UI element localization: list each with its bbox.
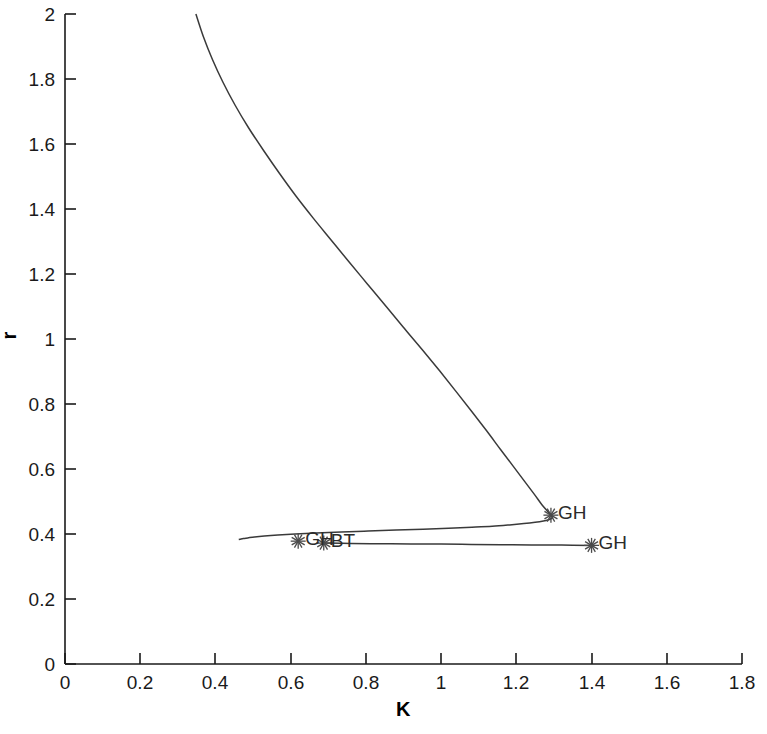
x-axis-title: K [396, 698, 410, 721]
ytick-label-0p4: 0.4 [10, 524, 55, 546]
ytick-label-1p8: 1.8 [10, 69, 55, 91]
xtick-label-1p4: 1.4 [567, 672, 617, 694]
point-label-gh-right: GH [599, 532, 628, 554]
xtick-label-0p8: 0.8 [341, 672, 391, 694]
xtick-label-0: 0 [40, 672, 90, 694]
ytick-label-0p8: 0.8 [10, 394, 55, 416]
bifurcation-figure: 2 1.8 1.6 1.4 1.2 1 0.8 0.6 0.4 0.2 0 0 … [0, 0, 767, 734]
point-label-gh-fold: GH [558, 502, 587, 524]
x-tick-marks [65, 653, 742, 664]
ytick-label-2: 2 [10, 4, 55, 26]
ytick-label-1p6: 1.6 [10, 134, 55, 156]
point-label-bt-left: BT [331, 530, 355, 552]
y-tick-marks [65, 14, 76, 664]
xtick-label-1p8: 1.8 [717, 672, 767, 694]
xtick-label-0p2: 0.2 [115, 672, 165, 694]
ytick-label-0p2: 0.2 [10, 589, 55, 611]
xtick-label-1: 1 [416, 672, 466, 694]
point-label-gh-left: GH [305, 528, 334, 550]
ytick-label-0p6: 0.6 [10, 459, 55, 481]
ytick-label-1p4: 1.4 [10, 199, 55, 221]
axis-lines [65, 14, 742, 664]
xtick-label-1p6: 1.6 [642, 672, 692, 694]
xtick-label-0p4: 0.4 [190, 672, 240, 694]
hopf-curve-upper [196, 14, 553, 540]
xtick-label-0p6: 0.6 [266, 672, 316, 694]
xtick-label-1p2: 1.2 [491, 672, 541, 694]
hopf-curve-lower [324, 543, 592, 545]
plot-canvas [0, 0, 767, 734]
y-axis-title: r [0, 332, 21, 340]
ytick-label-1p2: 1.2 [10, 264, 55, 286]
